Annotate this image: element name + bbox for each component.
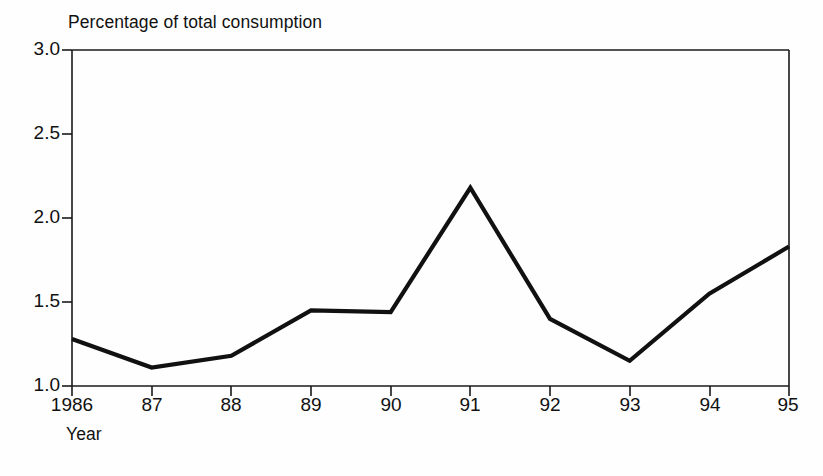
x-axis-ticks: [72, 386, 789, 396]
axis-frame: [72, 50, 789, 386]
data-series-line: [72, 188, 789, 368]
plot-area: [0, 0, 823, 476]
y-axis-ticks: [62, 50, 72, 386]
chart-figure: Percentage of total consumption Year 1.0…: [0, 0, 823, 476]
